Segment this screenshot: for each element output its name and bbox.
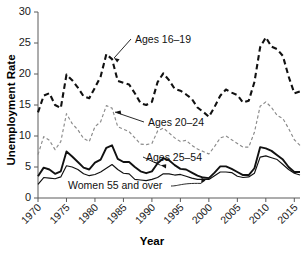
ages-20-24-annotation: Ages 20–24 [148,116,204,128]
chart-canvas: 051015202530 197019751980198519901995200… [0,0,306,253]
x-tick-label: 1995 [161,201,186,226]
x-tick-label: 1980 [75,201,100,226]
ages-16-19-annotation: Ages 16–19 [135,33,191,45]
x-tick-label: 1970 [18,201,43,226]
women-55-annotation: Women 55 and over [68,179,163,191]
x-tick-label: 1985 [104,201,129,226]
x-tick-label: 2015 [275,201,300,226]
y-tick-label: 25 [19,36,31,48]
ages-16-19-annotation-leader [114,39,131,58]
women-55-annotation-leader [171,183,201,186]
x-axis-ticks: 1970197519801985199019952000200520102015 [18,198,299,226]
x-tick-label: 2000 [189,201,214,226]
y-tick-label: 0 [25,191,31,203]
ages-25-54-arrowhead [161,164,167,168]
x-axis-title: Year [140,235,165,247]
x-axis: 1970197519801985199019952000200520102015 [18,198,300,226]
y-axis-ticks: 051015202530 [19,5,38,203]
y-tick-label: 5 [25,160,31,172]
unemployment-rate-chart: 051015202530 197019751980198519901995200… [0,0,306,253]
x-tick-label: 1975 [47,201,72,226]
y-tick-label: 10 [19,129,31,141]
x-tick-label: 1990 [132,201,157,226]
y-axis-title: Unemployment Rate [5,54,17,165]
ages-25-54-annotation: Ages 25–54 [146,151,202,163]
y-tick-label: 30 [19,5,31,17]
series-line-ages-16-19 [38,37,300,116]
y-tick-label: 20 [19,67,31,79]
y-tick-label: 15 [19,98,31,110]
y-axis: 051015202530 [19,5,38,203]
x-tick-label: 2010 [246,201,271,226]
x-tick-label: 2005 [218,201,243,226]
ages-16-19-arrowhead [114,58,120,62]
